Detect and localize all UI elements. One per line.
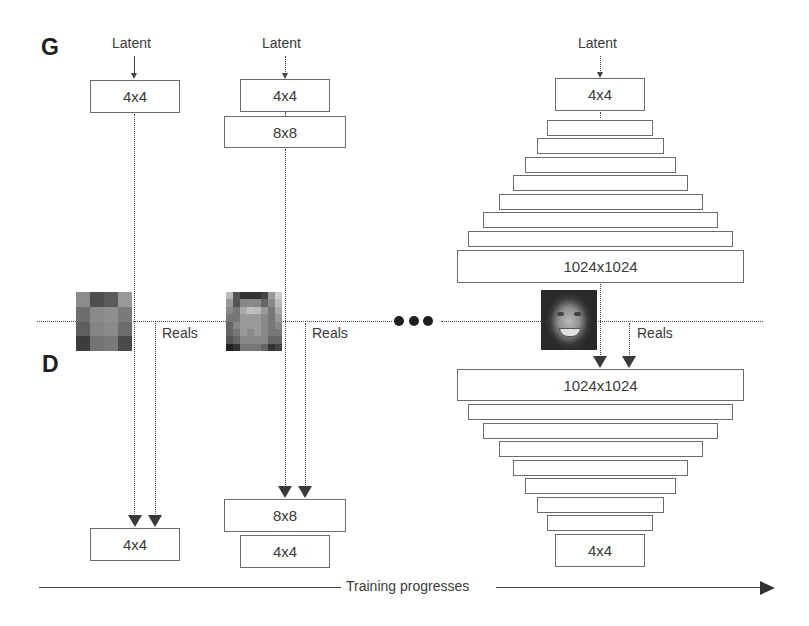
face-eye — [557, 312, 564, 316]
reals-line — [629, 323, 630, 357]
reals-label: Reals — [162, 325, 198, 341]
training-label: Training progresses — [346, 578, 469, 594]
real-face-image — [541, 290, 597, 350]
timeline-line-right — [496, 587, 760, 588]
generator-layer — [468, 231, 733, 247]
discriminator-layer — [499, 441, 703, 457]
arrow-down-icon — [593, 356, 607, 368]
arrow-down-icon — [148, 515, 162, 527]
generator-label: G — [41, 34, 59, 61]
ellipsis-dot — [394, 316, 404, 326]
face-smile — [559, 328, 581, 337]
discriminator-layer — [547, 515, 653, 531]
generator-layer — [513, 175, 688, 191]
latent-arrow-line — [134, 56, 135, 74]
generator-layer: 4x4 — [240, 79, 330, 112]
discriminator-layer: 1024x1024 — [457, 369, 744, 401]
generator-layer — [483, 212, 718, 228]
latent-arrow-line — [285, 56, 286, 74]
generated-sample-4x4 — [76, 292, 132, 351]
discriminator-label: D — [42, 351, 59, 378]
discriminator-layer — [483, 423, 718, 439]
generator-layer — [525, 157, 676, 173]
generator-layer: 1024x1024 — [457, 250, 744, 283]
reals-label: Reals — [637, 325, 673, 341]
discriminator-layer — [525, 478, 676, 494]
reals-line — [305, 323, 306, 485]
discriminator-layer: 8x8 — [224, 499, 346, 532]
face-eye — [574, 312, 581, 316]
generator-layer: 4x4 — [90, 80, 180, 113]
generator-layer — [547, 120, 653, 136]
latent-label: Latent — [262, 35, 301, 51]
generated-sample-8x8 — [226, 292, 282, 351]
discriminator-layer: 4x4 — [90, 528, 180, 561]
arrow-down-icon — [131, 73, 137, 79]
discriminator-layer: 4x4 — [555, 534, 645, 567]
generator-layer — [499, 194, 703, 210]
latent-label: Latent — [578, 35, 617, 51]
generator-to-discriminator-line — [285, 149, 286, 485]
generator-layer — [537, 138, 664, 154]
discriminator-layer — [537, 497, 664, 513]
generator-to-discriminator-line — [600, 284, 601, 357]
generator-to-discriminator-line — [134, 114, 135, 514]
arrow-down-icon — [622, 356, 636, 368]
arrow-down-icon — [298, 486, 312, 498]
generator-layer: 4x4 — [555, 78, 645, 111]
latent-label: Latent — [112, 35, 151, 51]
discriminator-layer — [468, 404, 733, 420]
arrow-down-icon — [278, 486, 292, 498]
arrow-down-icon — [128, 515, 142, 527]
discriminator-layer — [513, 460, 688, 476]
discriminator-layer: 4x4 — [240, 535, 330, 568]
ellipsis-dot — [423, 316, 433, 326]
ellipsis-dot — [409, 316, 419, 326]
timeline-line-left — [39, 587, 341, 588]
reals-line — [155, 323, 156, 514]
reals-label: Reals — [312, 325, 348, 341]
generator-layer: 8x8 — [224, 116, 346, 148]
latent-arrow-line — [600, 56, 601, 73]
arrow-right-icon — [760, 581, 775, 595]
layer-connector — [600, 112, 601, 118]
divider-line-right — [441, 321, 763, 322]
